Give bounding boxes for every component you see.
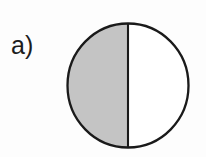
half-shaded-circle-diagram — [64, 20, 192, 151]
circle-svg-canvas — [64, 20, 192, 151]
panel-label: a) — [11, 31, 33, 59]
unshaded-right-half — [128, 24, 189, 148]
shaded-left-half — [68, 24, 129, 148]
figure-panel: a) — [0, 0, 206, 157]
